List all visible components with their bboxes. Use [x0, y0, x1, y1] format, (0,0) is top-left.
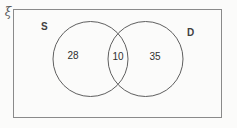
- set-label-d: D: [187, 27, 194, 38]
- venn-diagram-canvas: ξ S D 28 10 35: [0, 0, 237, 128]
- region-count-d-only: 35: [145, 51, 165, 62]
- region-count-s-only: 28: [63, 50, 83, 61]
- set-label-s: S: [41, 21, 48, 32]
- region-count-intersection: 10: [108, 51, 128, 62]
- venn-circles: [0, 0, 237, 128]
